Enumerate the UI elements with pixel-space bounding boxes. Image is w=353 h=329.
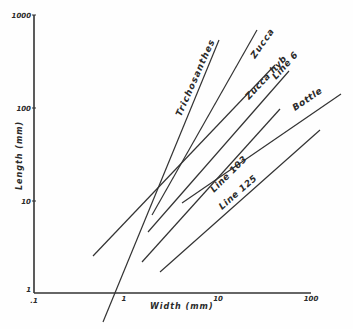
log-log-chart: 1000 100 10 1 .1 1 10 100 Width (mm) Len…: [0, 0, 353, 329]
x-tick-100: 100: [304, 295, 319, 303]
x-tick-0.1: .1: [30, 297, 38, 305]
line-trichosanthes: [103, 40, 219, 322]
label-zucca: Zucca: [248, 26, 277, 61]
y-tick-100: 100: [16, 105, 31, 113]
y-axis-title: Length (mm): [15, 121, 24, 190]
x-tick-10: 10: [213, 295, 223, 303]
x-axis-title: Width (mm): [150, 302, 214, 311]
y-tick-1: 1: [26, 286, 31, 294]
line-bottle: [182, 94, 341, 203]
label-trichosanthes: Trichosanthes: [174, 37, 217, 117]
line-line6: [148, 71, 289, 232]
y-tick-10: 10: [21, 198, 31, 206]
x-tick-1: 1: [122, 295, 127, 303]
y-tick-1000: 1000: [12, 12, 32, 20]
